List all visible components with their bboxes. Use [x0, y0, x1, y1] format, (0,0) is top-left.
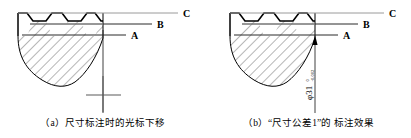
svg-text:φ31: φ31: [304, 86, 314, 100]
leader-label-b: B: [157, 19, 164, 30]
thread-tooth-profile: [230, 13, 315, 21]
leader-label-a: A: [131, 30, 139, 41]
panel-b-drawing: C B A φ31 0 -0.002: [206, 0, 411, 120]
leader-label-c: C: [389, 8, 396, 19]
dimension-text-group: φ31 0 -0.002: [304, 69, 315, 100]
panel-a-drawing: C B A: [0, 0, 205, 120]
crosshair-cursor[interactable]: [86, 76, 121, 112]
figure-root: C B A （a）尺寸标注时的光标下移: [0, 0, 411, 138]
leader-label-b: B: [363, 19, 370, 30]
figure-panel-b: C B A φ31 0 -0.002 （b）“尺寸公差1”的 标注效果: [206, 0, 411, 138]
figure-panel-a: C B A （a）尺寸标注时的光标下移: [0, 0, 205, 138]
leader-label-a: A: [343, 30, 351, 41]
dimension-nominal: 31: [304, 86, 314, 95]
panel-b-caption: （b）“尺寸公差1”的 标注效果: [206, 116, 411, 130]
leader-label-c: C: [183, 8, 190, 19]
panel-a-caption: （a）尺寸标注时的光标下移: [0, 116, 205, 130]
thread-tooth-profile: [18, 13, 103, 21]
dimension-lower-tolerance: -0.002: [310, 69, 315, 82]
